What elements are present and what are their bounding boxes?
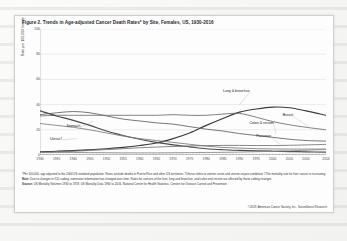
x-axis-tick-label: 1950 [103,157,110,161]
y-axis-tick-label: 100 [26,27,40,31]
y-axis-tick-label: 80 [26,52,40,56]
series-label-uterus: Uterus† [50,137,62,141]
y-axis-tick-label: 60 [26,77,40,81]
x-axis-tick-label: 1935 [53,157,60,161]
series-label-pancreas: Pancreas [256,134,271,138]
x-axis-tick-label: 1980 [203,157,210,161]
x-axis-tick-label: 1970 [169,157,176,161]
chart-svg [40,29,326,155]
label-leader-line [240,92,250,105]
x-axis-tick-label: 2000 [269,157,276,161]
x-axis-tick-label: 1945 [86,157,93,161]
x-axis-ticks: 1930193519401945195019551960196519701975… [40,157,326,167]
note-text: Due to changes in ICD coding, numerator … [30,177,272,181]
x-axis-tick-label: 1965 [153,157,160,161]
copyright-line: ©2019, American Cancer Society, Inc., Su… [248,205,327,209]
x-axis-tick-label: 1990 [236,157,243,161]
x-axis-tick-label: 1975 [186,157,193,161]
x-axis-tick-label: 1960 [136,157,143,161]
y-axis-tick-label: 20 [26,128,40,132]
x-axis-tick-label: 1930 [36,157,43,161]
x-axis-tick-label: 2016 [322,157,329,161]
y-axis-ticks: 020406080100 [22,29,40,155]
source-label: Source: [22,182,33,186]
series-label-colon-rectum: Colon & rectum [250,121,274,125]
figure-title: Figure 2. Trends in Age-adjusted Cancer … [22,20,327,26]
x-axis-tick-label: 1955 [119,157,126,161]
source-line: Source: US Mortality Volumes 1930 to 195… [22,183,327,187]
note-label: Note: [22,177,29,181]
plot-area: Rate per 100,000 female population 02040… [22,29,326,169]
series-label-breast: Breast [283,113,293,117]
label-leader-line [274,124,277,134]
series-label-stomach: Stomach [67,124,81,128]
y-axis-tick-label: 40 [26,103,40,107]
x-axis-tick-label: 2010 [302,157,309,161]
x-axis-tick-label: 2005 [286,157,293,161]
label-leader-line [62,139,77,140]
figure-panel: Figure 2. Trends in Age-adjusted Cancer … [14,15,334,213]
series-label-lung-bronchus: Lung & bronchus [223,89,250,93]
source-text: US Mortality Volumes 1930 to 1959, US Mo… [34,182,228,186]
x-axis-tick-label: 1940 [70,157,77,161]
figure-notes: *Per 100,000, age adjusted to the 2000 U… [22,173,327,189]
x-axis-tick-label: 1995 [252,157,259,161]
x-axis-tick-label: 1985 [219,157,226,161]
